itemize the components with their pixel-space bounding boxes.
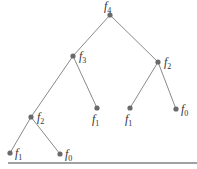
- tree-node: [94, 105, 99, 110]
- node-label: f1: [92, 112, 99, 128]
- tree-edge: [110, 15, 158, 62]
- tree-edge: [10, 117, 31, 153]
- tree-node: [7, 150, 12, 155]
- node-label: f2: [164, 55, 171, 71]
- tree-node: [28, 114, 33, 119]
- tree-node: [173, 106, 178, 111]
- node-label: f0: [65, 147, 72, 163]
- node-label: f1: [15, 146, 22, 162]
- tree-edge: [130, 62, 158, 108]
- node-label: f3: [79, 49, 86, 65]
- node-label: f4: [104, 0, 111, 15]
- tree-edges: [10, 15, 176, 154]
- tree-diagram: f4f3f2f2f1f1f0f1f0: [0, 0, 197, 169]
- tree-node: [70, 53, 75, 58]
- tree-node: [155, 59, 160, 64]
- node-label: f0: [181, 102, 188, 118]
- tree-node: [57, 151, 62, 156]
- tree-node: [127, 105, 132, 110]
- node-label: f1: [125, 112, 132, 128]
- tree-edge: [31, 117, 60, 154]
- tree-edge: [31, 56, 73, 117]
- node-label: f2: [37, 110, 44, 126]
